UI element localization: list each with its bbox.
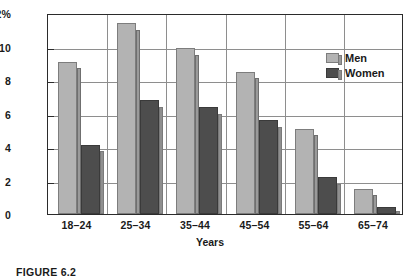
bar-men [236,72,255,214]
x-axis-tick-label: 45–54 [225,219,284,231]
x-axis-tick-label: 25–34 [106,219,165,231]
bar-side-face [159,107,163,214]
bar-side-face [337,184,341,214]
bar-front-face [377,207,396,214]
bar-front-face [318,177,337,214]
bar-side-face [218,114,222,214]
bar-group [166,15,226,214]
x-axis-tick-label: 35–44 [165,219,225,231]
bar-group [107,15,166,214]
y-axis-tick-label: 8 [5,75,11,87]
bar-front-face [354,189,373,214]
bar-front-face [117,23,136,214]
x-axis-tick-label: 65–74 [343,219,403,231]
bar-front-face [58,62,77,214]
plot-area: Men Women [47,14,403,215]
bar-women [377,207,396,214]
bar-men [58,62,77,214]
bar-women [81,145,100,214]
bar-men [117,23,136,214]
x-axis-title: Years [0,236,420,248]
bar-group [344,15,404,214]
legend-label: Men [345,52,367,64]
bar-front-face [295,129,314,214]
legend-item-men: Men [326,52,385,64]
bar-side-face [100,151,104,214]
bar-side-face [278,127,282,214]
bar-front-face [81,145,100,214]
x-axis-tick-label: 55–64 [284,219,343,231]
bar-front-face [259,120,278,214]
bar-groups [48,15,402,214]
y-axis-tick-label: 2 [5,176,11,188]
bar-women [318,177,337,214]
legend-label: Women [345,67,385,79]
bar-side-face [396,211,400,214]
bar-front-face [176,48,195,214]
bar-group [226,15,285,214]
bar-men [176,48,195,214]
bar-group [48,15,107,214]
bar-men [295,129,314,214]
y-axis-tick-label: 10 [0,42,11,54]
y-axis-tick-label: 4 [5,142,11,154]
bar-men [354,189,373,214]
bar-front-face [199,107,218,214]
legend: Men Women [326,52,385,79]
women-color-swatch-icon [326,68,339,78]
y-axis-tick-label: 6 [5,109,11,121]
bar-front-face [140,100,159,214]
y-axis-tick-label: 0 [5,209,11,221]
bar-women [199,107,218,214]
bar-front-face [236,72,255,214]
y-axis-tick-label: 12% [0,8,11,20]
bar-group [285,15,344,214]
legend-item-women: Women [326,67,385,79]
figure-caption: FIGURE 6.2 [16,266,76,278]
x-axis-tick-label: 18–24 [47,219,106,231]
men-color-swatch-icon [326,53,339,63]
bar-women [140,100,159,214]
bar-women [259,120,278,214]
